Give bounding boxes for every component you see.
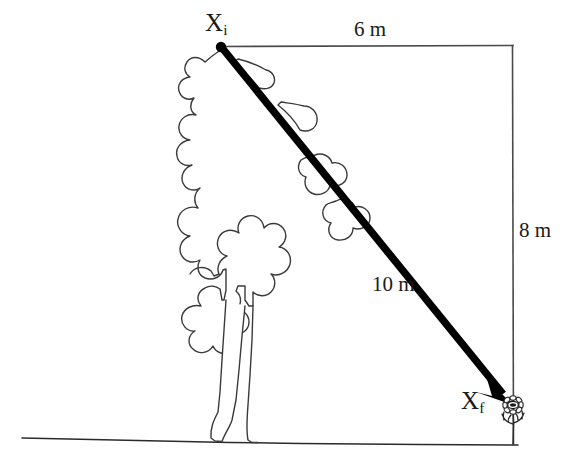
- displacement-vector-shaft: [223, 49, 503, 394]
- flower: [502, 396, 524, 444]
- vector-diagram-svg: [0, 0, 582, 468]
- initial-position-dot: [216, 42, 226, 52]
- initial-position-label: Xi: [205, 10, 228, 35]
- flower-stem: [513, 412, 514, 444]
- vertical-distance-label: 8 m: [519, 220, 551, 241]
- flower-center-inner: [510, 403, 516, 406]
- final-position-label: Xf: [461, 388, 485, 413]
- horizontal-leg-line: [221, 46, 513, 47]
- diagram-canvas: Xi Xf 6 m 8 m 10 m: [0, 0, 582, 468]
- horizontal-distance-label: 6 m: [354, 19, 386, 40]
- ground-line: [22, 438, 518, 445]
- vertical-leg-line: [513, 46, 514, 446]
- displacement-magnitude-label: 10 m: [372, 274, 415, 295]
